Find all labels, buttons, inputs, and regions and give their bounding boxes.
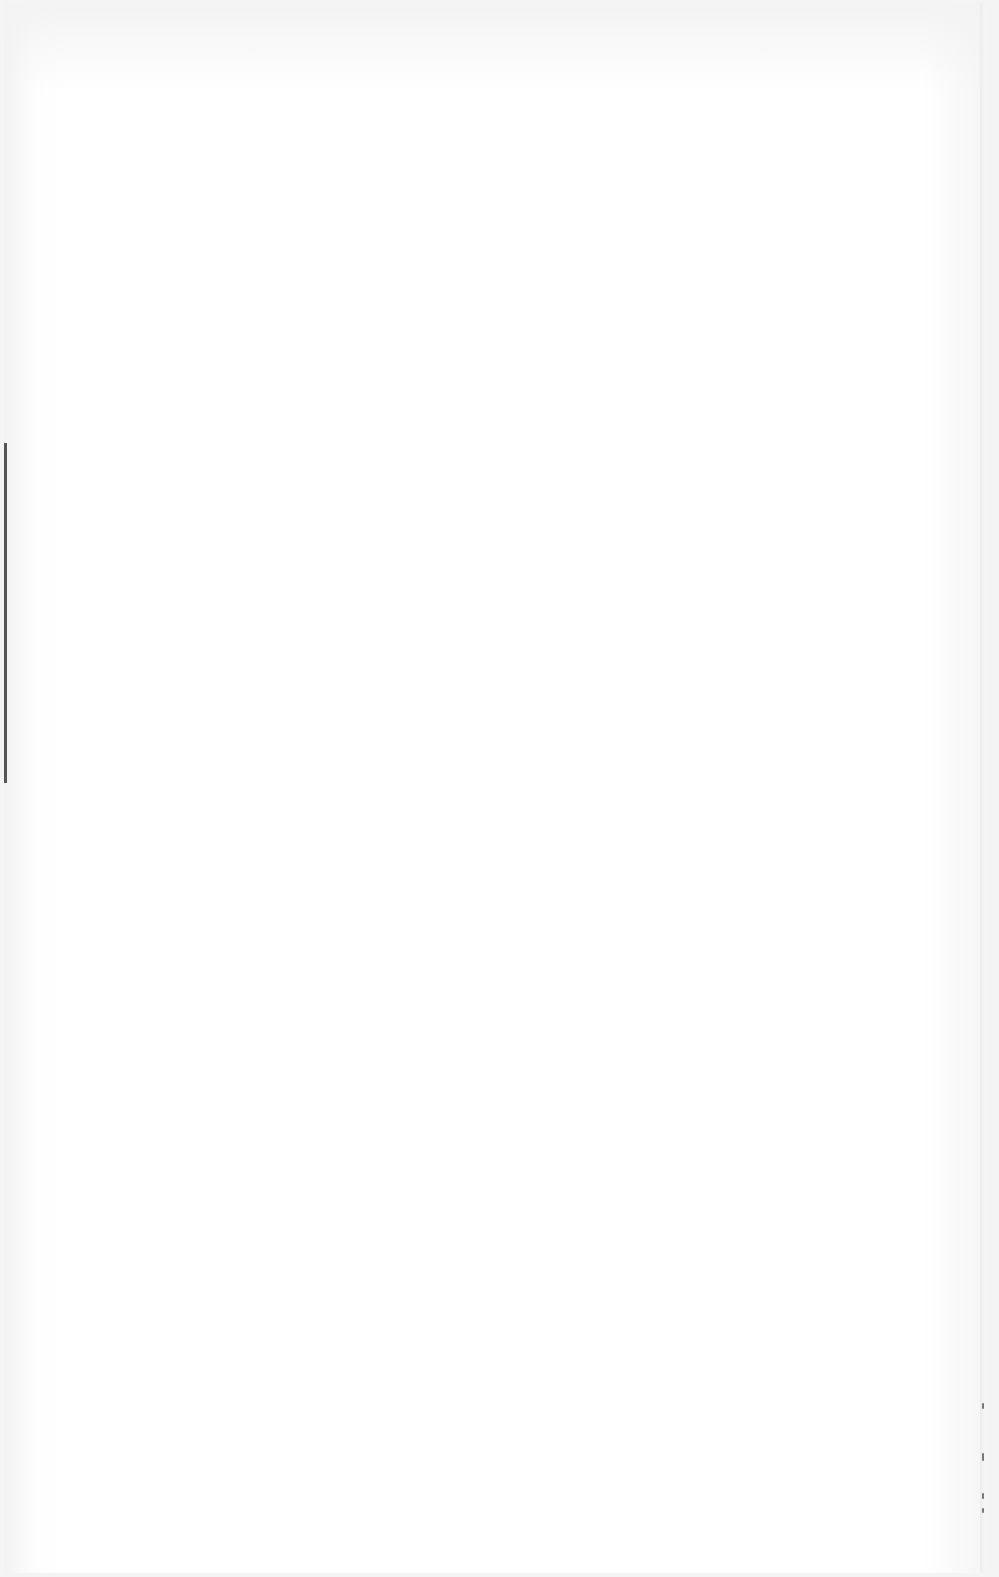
blank-page: [4, 3, 980, 1573]
scan-speck: [982, 1403, 984, 1409]
scan-speck: [982, 1508, 984, 1513]
scan-speck: [982, 1453, 984, 1461]
page-edge: [980, 3, 986, 1573]
scan-speck: [982, 1493, 984, 1499]
show-through-band: [4, 3, 980, 93]
binding-shadow: [4, 443, 7, 783]
